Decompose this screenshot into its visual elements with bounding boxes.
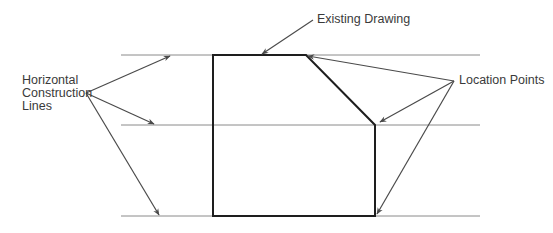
construction-lines-leaders (86, 56, 170, 215)
location-point-arrow-bottom (377, 81, 454, 214)
leader-arrow-middle (86, 93, 154, 124)
diagram-canvas (0, 0, 553, 233)
leader-arrow-top (86, 56, 170, 93)
horizontal-construction-lines (121, 55, 480, 216)
existing-drawing-outline (213, 55, 375, 216)
location-point-arrow-top (308, 56, 454, 81)
location-points-label: Location Points (459, 74, 544, 87)
horizontal-construction-lines-label: Horizontal Construction Lines (22, 74, 92, 113)
location-point-arrow-middle (380, 81, 454, 122)
label-line-3: Lines (22, 100, 92, 113)
existing-drawing-leader-arrow (262, 20, 313, 54)
leader-arrow-bottom (86, 93, 159, 215)
existing-drawing-label: Existing Drawing (317, 13, 410, 26)
